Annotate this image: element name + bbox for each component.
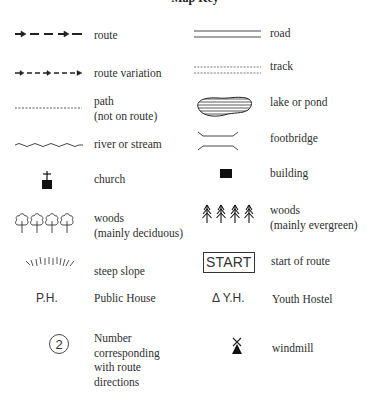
numbered-circle-icon: 2: [48, 333, 70, 355]
label-route-number-line-2: corresponding: [94, 346, 160, 361]
label-woods-evergreen-line-1: woods: [270, 203, 358, 218]
svg-text:2: 2: [55, 337, 62, 352]
label-start: start of route: [271, 254, 330, 269]
label-woods-evergreen-line-2: (mainly evergreen): [270, 218, 358, 233]
label-route-number: Number corresponding with route directio…: [94, 331, 160, 389]
label-path-line-2: (not on route): [94, 109, 157, 124]
label-youth-hostel: Youth Hostel: [272, 292, 333, 307]
double-dashed-line-icon: [194, 65, 262, 75]
route-variation-arrow-dash-icon: [14, 68, 86, 78]
label-route-number-line-3: with route: [94, 360, 160, 375]
double-line-icon: [194, 29, 262, 39]
label-route-number-line-1: Number: [94, 331, 160, 346]
deciduous-trees-icon: [14, 212, 84, 234]
label-path: path (not on route): [94, 94, 157, 123]
label-route-variation: route variation: [94, 66, 161, 81]
footbridge-icon: [197, 131, 241, 151]
lake-hatched-icon: [194, 95, 254, 119]
windmill-icon: [231, 337, 243, 355]
start-box-symbol: START: [203, 252, 255, 273]
label-footbridge: footbridge: [270, 131, 318, 146]
label-steep-slope: steep slope: [94, 264, 145, 279]
label-woods-evergreen: woods (mainly evergreen): [270, 203, 358, 232]
label-building: building: [270, 166, 308, 181]
label-route: route: [94, 28, 118, 43]
youth-hostel-symbol: Δ Y.H.: [212, 291, 244, 305]
building-square-icon: [220, 169, 232, 178]
route-arrow-dash-icon: [14, 29, 86, 39]
label-track: track: [270, 59, 293, 74]
label-windmill: windmill: [272, 341, 314, 356]
label-woods-deciduous-line-2: (mainly deciduous): [94, 226, 183, 241]
page-title: Map Key: [0, 0, 390, 6]
label-church: church: [94, 172, 125, 187]
label-river: river or stream: [94, 137, 162, 152]
label-route-number-line-4: directions: [94, 375, 160, 390]
label-lake: lake or pond: [270, 95, 327, 110]
label-path-line-1: path: [94, 94, 157, 109]
label-public-house: Public House: [94, 291, 156, 306]
evergreen-trees-icon: [202, 204, 258, 224]
wavy-line-icon: [14, 141, 84, 149]
label-road: road: [270, 26, 290, 41]
steep-slope-hatch-icon: [24, 256, 78, 270]
label-woods-deciduous: woods (mainly deciduous): [94, 211, 183, 240]
dotted-line-icon: [14, 106, 84, 110]
public-house-symbol: P.H.: [36, 291, 58, 305]
label-woods-deciduous-line-1: woods: [94, 211, 183, 226]
church-cross-icon: [40, 171, 54, 191]
